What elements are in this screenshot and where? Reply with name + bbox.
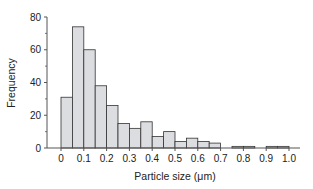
y-tick-label: 20 <box>30 110 42 121</box>
histogram-bar <box>95 86 106 148</box>
y-axis: 020406080 <box>30 12 47 154</box>
y-tick-label: 80 <box>30 12 42 23</box>
histogram-bars <box>61 27 289 148</box>
x-tick-label: 0.5 <box>168 153 182 164</box>
histogram-bar <box>72 27 83 148</box>
histogram-bar <box>209 143 220 148</box>
x-tick-label: 0 <box>58 153 64 164</box>
histogram-bar <box>152 137 163 148</box>
x-tick-label: 0.3 <box>122 153 136 164</box>
histogram-bar <box>107 105 118 148</box>
x-tick-label: 1.0 <box>282 153 296 164</box>
x-tick-label: 0.8 <box>236 153 250 164</box>
histogram-bar <box>186 138 197 148</box>
x-tick-label: 0.2 <box>100 153 114 164</box>
x-tick-label: 0.4 <box>145 153 159 164</box>
y-tick-label: 60 <box>30 44 42 55</box>
x-axis: 00.10.20.30.40.50.60.70.80.91.0 <box>47 148 300 164</box>
y-axis-title: Frequency <box>5 57 17 107</box>
y-tick-label: 0 <box>35 143 41 154</box>
histogram-bar <box>84 50 95 148</box>
x-tick-label: 0.1 <box>77 153 91 164</box>
histogram-bar <box>129 128 140 148</box>
histogram-bar <box>61 97 72 148</box>
x-tick-label: 0.6 <box>191 153 205 164</box>
histogram-bar <box>141 122 152 148</box>
histogram-bar <box>175 141 186 148</box>
histogram-bar <box>164 132 175 148</box>
x-tick-label: 0.9 <box>259 153 273 164</box>
x-axis-title: Particle size (μm) <box>134 170 215 182</box>
x-tick-label: 0.7 <box>214 153 228 164</box>
histogram-bar <box>198 141 209 148</box>
histogram-chart: 020406080 00.10.20.30.40.50.60.70.80.91.… <box>0 0 313 189</box>
histogram-bar <box>118 123 129 148</box>
y-tick-label: 40 <box>30 77 42 88</box>
